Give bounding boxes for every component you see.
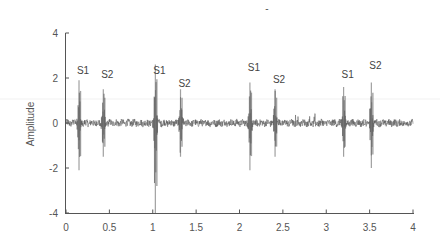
signal-waveform bbox=[66, 65, 413, 214]
x-tick-label: 0.5 bbox=[102, 222, 116, 233]
y-tick-label: 2 bbox=[52, 73, 58, 84]
x-tick-label: 1 bbox=[150, 222, 156, 233]
signal-line bbox=[66, 82, 413, 183]
peak-label-s2: S2 bbox=[178, 78, 191, 89]
y-tick-label: -4 bbox=[49, 208, 58, 219]
peak-label-s1: S1 bbox=[248, 62, 261, 73]
chart-title: - bbox=[265, 3, 268, 14]
peak-label-s1: S1 bbox=[77, 65, 90, 76]
peak-label-s2: S2 bbox=[273, 74, 286, 85]
y-tick-label: 0 bbox=[52, 118, 58, 129]
x-tick-label: 0 bbox=[63, 222, 69, 233]
peak-label-s1: S1 bbox=[153, 65, 166, 76]
peak-label-s1: S1 bbox=[341, 69, 354, 80]
x-tick-label: 2.5 bbox=[276, 222, 290, 233]
y-tick-label: 4 bbox=[52, 28, 58, 39]
heart-sound-chart: - S1S2S1S2S1S2S1S2 420-2-4 00.511.522.53… bbox=[0, 0, 440, 250]
y-tick-label: -2 bbox=[49, 163, 58, 174]
y-axis-title: Amplitude bbox=[25, 101, 36, 146]
x-tick-label: 3 bbox=[323, 222, 329, 233]
peak-labels: S1S2S1S2S1S2S1S2 bbox=[77, 60, 382, 89]
x-tick-label: 1.5 bbox=[189, 222, 203, 233]
x-tick-label: 3.5 bbox=[363, 222, 377, 233]
x-tick-label: 4 bbox=[410, 222, 416, 233]
peak-label-s2: S2 bbox=[369, 60, 382, 71]
peak-label-s2: S2 bbox=[101, 69, 114, 80]
y-axis-ticks: 420-2-4 bbox=[49, 28, 69, 219]
x-tick-label: 2 bbox=[237, 222, 243, 233]
